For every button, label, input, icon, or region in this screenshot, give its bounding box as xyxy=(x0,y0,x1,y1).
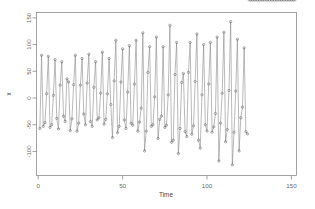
y-tick-label: -100 xyxy=(25,145,32,158)
y-tick-label: -50 xyxy=(25,120,32,130)
x-axis-title: Time xyxy=(159,191,173,198)
y-tick-label: 150 xyxy=(25,12,32,23)
x-tick-label: 50 xyxy=(119,182,126,189)
x-tick-label: 0 xyxy=(36,182,40,189)
x-tick-label: 100 xyxy=(202,182,213,189)
timeseries-plot-canvas: 050100150 -100-50050100150 Time x xyxy=(0,0,315,209)
plot-figure: 050100150 -100-50050100150 Time x xyxy=(0,0,315,209)
y-tick-label: 100 xyxy=(25,39,32,50)
x-tick-label: 150 xyxy=(286,182,297,189)
y-tick-label: 50 xyxy=(25,67,32,74)
y-tick-label: 0 xyxy=(25,96,32,100)
